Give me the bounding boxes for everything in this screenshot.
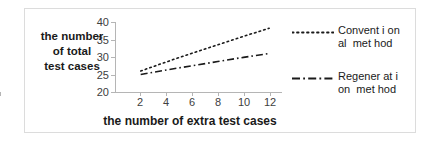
legend-label-conventional: Convent i on al met hod — [338, 24, 416, 50]
x-tick-label-4: 4 — [156, 97, 176, 108]
x-tick-label-10: 10 — [234, 97, 254, 108]
legend-item-conventional[interactable]: Convent i on al met hod — [292, 24, 416, 50]
x-tick-label-6: 6 — [182, 97, 202, 108]
x-tick-label-8: 8 — [208, 97, 228, 108]
y-axis-title-line-2: of total — [26, 44, 118, 59]
x-tick-label-2: 2 — [130, 97, 150, 108]
y-axis-title-line-1: the number — [26, 29, 118, 44]
dash-dot-line-icon — [292, 77, 334, 80]
y-axis-title: the number of total test cases — [26, 29, 118, 74]
y-tick-label-20: 20 — [83, 87, 109, 98]
chart-screenshot: 40 35 30 25 20 2 4 6 8 10 12 the number … — [0, 0, 427, 147]
dotted-line-icon — [292, 31, 334, 34]
series-line-conventional — [141, 28, 269, 71]
y-tick-label-40: 40 — [83, 17, 109, 28]
y-tick-mark-20 — [111, 92, 115, 93]
series-plot-area — [115, 22, 282, 92]
legend-label-regeneration: Regener at i on met hod — [338, 70, 416, 96]
legend: Convent i on al met hod Regener at i on … — [292, 24, 416, 116]
x-tick-label-12: 12 — [260, 97, 280, 108]
x-axis-title: the number of extra test cases — [70, 114, 310, 128]
legend-item-regeneration[interactable]: Regener at i on met hod — [292, 70, 416, 96]
y-axis-title-line-3: test cases — [26, 59, 118, 74]
